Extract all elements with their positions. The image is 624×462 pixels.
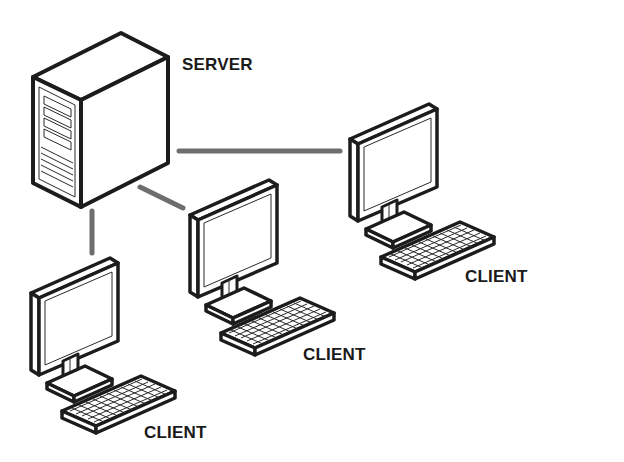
- client-right-computer-icon: [350, 104, 494, 279]
- network-diagram: [0, 0, 624, 462]
- client-middle-label: CLIENT: [303, 346, 366, 363]
- client-left-label: CLIENT: [144, 424, 207, 441]
- client-middle-computer-icon: [190, 180, 334, 355]
- client-right-label: CLIENT: [465, 268, 528, 285]
- server-tower-icon: [33, 33, 168, 207]
- client-left-computer-icon: [31, 258, 175, 433]
- connector-server-client-middle: [140, 187, 183, 208]
- server-label: SERVER: [182, 56, 253, 73]
